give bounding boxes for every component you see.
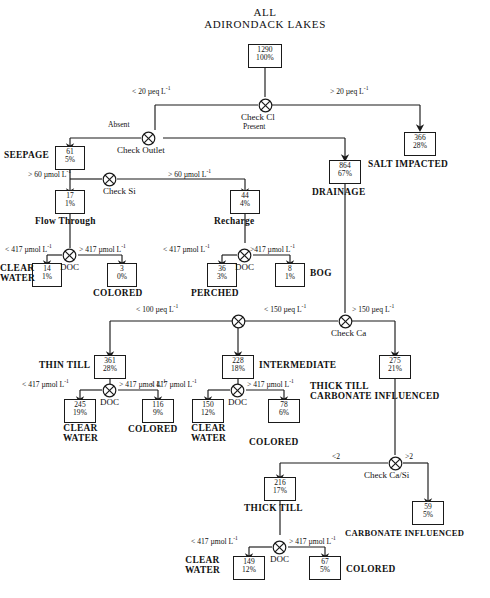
category-colored-thin-till: COLORED	[128, 424, 178, 434]
category-bog: BOG	[310, 268, 332, 278]
category-thin-till: THIN TILL	[39, 360, 90, 370]
decision-node-doc-thin-till[interactable]	[102, 383, 117, 398]
node-label-check-cl: Check Cl	[241, 112, 275, 122]
decision-node-check-outlet[interactable]	[141, 131, 156, 146]
box-salt-impacted: 366 28%	[404, 132, 436, 156]
decision-tree-diagram: ALL ADIRONDACK LAKES 1290 100% 366 28% 6…	[0, 0, 490, 598]
node-label-check-outlet: Check Outlet	[117, 145, 165, 155]
condition-ca-less-than-150: < 150 µeq L-1	[264, 303, 306, 314]
category-perched: PERCHED	[191, 288, 239, 298]
box-percent: 1%	[276, 273, 304, 281]
box-percent: 5%	[413, 511, 443, 519]
box-clear-water-intermediate: 150 12%	[192, 399, 224, 423]
condition-si-right: > 60 µmol L-1	[168, 168, 211, 179]
box-percent: 28%	[95, 365, 125, 373]
box-colored-flow-through: 3 0%	[107, 263, 137, 287]
condition-outlet-absent: Absent	[108, 120, 130, 129]
decision-node-check-ca-si[interactable]	[388, 456, 403, 471]
decision-node-doc-thick-till[interactable]	[272, 540, 287, 555]
box-percent: 17%	[265, 487, 295, 495]
title-line-1: ALL	[253, 6, 276, 18]
condition-si-left: > 60 µmol L-1	[28, 168, 71, 179]
category-seepage: SEEPAGE	[4, 150, 49, 160]
box-flow-through: 17 1%	[55, 190, 85, 214]
box-percent: 67%	[330, 170, 360, 178]
box-percent: 12%	[193, 409, 223, 417]
box-percent: 9%	[143, 409, 173, 417]
box-seepage: 61 5%	[55, 146, 85, 170]
condition-cl-less-than: < 20 µeq L-1	[132, 85, 170, 96]
decision-node-doc-flow-through[interactable]	[62, 248, 77, 263]
condition-doc5-greater-than: > 417 µmol L-1	[289, 535, 336, 546]
title-line-2: ADIRONDACK LAKES	[204, 18, 326, 30]
condition-doc2-less-than: < 417 µmol L-1	[163, 243, 210, 254]
condition-doc2-greater-than: >417 µmol L-1	[250, 243, 295, 254]
category-recharge: Recharge	[214, 216, 254, 226]
box-intermediate: 228 18%	[222, 355, 254, 379]
box-carbonate-influenced: 59 5%	[412, 501, 444, 525]
box-percent: 18%	[223, 365, 253, 373]
condition-doc5-less-than: < 417 µmol L-1	[191, 535, 238, 546]
category-flow-through: Flow Through	[35, 216, 96, 226]
box-thick-till-carbonate-influenced: 275 21%	[379, 355, 411, 379]
node-label-check-ca-si: Check Ca/Si	[364, 470, 409, 480]
condition-ca-less-than-100: < 100 µeq L-1	[136, 303, 178, 314]
condition-ca-greater-than-150: > 150 µeq L-1	[352, 303, 394, 314]
box-colored-intermediate: 78 6%	[268, 399, 300, 423]
category-clear-water-thin-till: CLEAR WATER	[62, 424, 99, 444]
box-perched: 36 3%	[207, 263, 237, 287]
box-percent: 1%	[33, 273, 61, 281]
decision-node-check-cl[interactable]	[258, 98, 273, 113]
decision-node-ca-mid[interactable]	[231, 314, 246, 329]
condition-outlet-present: Present	[243, 122, 265, 131]
box-all-lakes: 1290 100%	[248, 44, 282, 68]
category-colored-intermediate: COLORED	[249, 437, 299, 447]
category-carbonate-influenced: CARBONATE INFLUENCED	[345, 528, 464, 538]
box-percent: 0%	[108, 273, 136, 281]
box-percent: 4%	[231, 200, 259, 208]
box-clear-water-thick-till: 149 12%	[233, 556, 265, 580]
condition-doc1-less-than: < 417 µmol L-1	[5, 243, 52, 254]
box-percent: 5%	[56, 156, 84, 164]
category-drainage: DRAINAGE	[312, 187, 365, 197]
category-colored-thick-till: COLORED	[346, 564, 396, 574]
box-percent: 21%	[380, 365, 410, 373]
box-bog: 8 1%	[275, 263, 305, 287]
condition-ca-si-greater-than-2: >2	[405, 452, 413, 461]
condition-doc4-greater-than: > 417 µmol L-1	[247, 378, 294, 389]
condition-cl-greater-than: > 20 µeq L-1	[330, 85, 368, 96]
category-clear-water-flow-through: CLEAR WATER	[0, 264, 31, 284]
decision-node-check-si[interactable]	[102, 172, 117, 187]
diagram-title: ALL ADIRONDACK LAKES	[185, 6, 345, 30]
box-colored-thick-till: 67 5%	[309, 556, 341, 580]
condition-doc4-less-than: < 417 µmol L-1	[150, 378, 197, 389]
condition-doc1-greater-than: > 417 µmol L-1	[79, 243, 126, 254]
category-intermediate: INTERMEDIATE	[259, 360, 336, 370]
condition-doc3-less-than: < 417 µmol L-1	[22, 378, 69, 389]
category-thick-till-carbonate-influenced: THICK TILL CARBONATE INFLUENCED	[310, 382, 480, 402]
box-clear-water-thin-till: 245 19%	[64, 399, 96, 423]
condition-ca-si-less-than-2: <2	[332, 452, 340, 461]
box-percent: 6%	[269, 409, 299, 417]
decision-node-doc-intermediate[interactable]	[230, 383, 245, 398]
box-percent: 28%	[405, 142, 435, 150]
node-label-check-ca: Check Ca	[331, 328, 366, 338]
category-salt-impacted: SALT IMPACTED	[368, 159, 448, 169]
node-label-doc-intermediate: DOC	[228, 397, 247, 407]
box-clear-water-flow-through: 14 1%	[32, 263, 62, 287]
box-percent: 12%	[234, 566, 264, 574]
box-recharge: 44 4%	[230, 190, 260, 214]
category-clear-water-thick-till: CLEAR WATER	[175, 556, 230, 576]
category-thick-till: THICK TILL	[244, 503, 303, 513]
box-thin-till: 361 28%	[94, 355, 126, 379]
node-label-check-si: Check Si	[103, 186, 136, 196]
node-label-doc-thin-till: DOC	[100, 397, 119, 407]
node-label-doc-thick-till: DOC	[270, 554, 289, 564]
box-percent: 100%	[249, 54, 281, 62]
node-label-doc-recharge: DOC	[235, 262, 254, 272]
category-colored-flow-through: COLORED	[93, 288, 143, 298]
box-colored-thin-till: 116 9%	[142, 399, 174, 423]
decision-node-check-ca[interactable]	[338, 314, 353, 329]
category-clear-water-intermediate: CLEAR WATER	[190, 424, 227, 444]
box-drainage: 864 67%	[329, 160, 361, 184]
